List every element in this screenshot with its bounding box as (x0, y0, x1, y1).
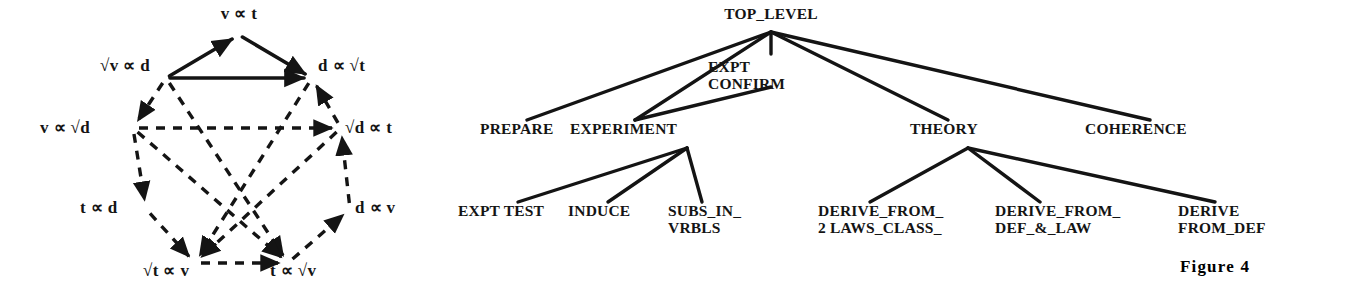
tree-node-derive_from_def_law: DERIVE_FROM_DEF_&_LAW (995, 202, 1121, 236)
proportionality-node-t_d: t ∝ d (80, 198, 118, 217)
tree-node-experiment: EXPERIMENT (570, 120, 678, 137)
tree-node-derive_from_2laws: DERIVE_FROM_2 LAWS_CLASS_ (818, 202, 944, 236)
tree-edge (771, 32, 1150, 120)
proportionality-edge (293, 215, 344, 259)
tree-node-label-line1: DERIVE_FROM_ (995, 202, 1121, 219)
proportionality-node-sqrtd_t: √d ∝ t (345, 118, 392, 137)
tree-node-label-line2: 2 LAWS_CLASS_ (818, 219, 942, 236)
tree-node-label-line1: EXPT (708, 58, 751, 75)
tree-edge (687, 148, 702, 202)
proportionality-solid-edges (169, 37, 305, 78)
figure-caption: Figure 4 (1180, 257, 1250, 276)
proportionality-node-sqrtt_v: √t ∝ v (143, 261, 189, 280)
tree-edge (771, 32, 948, 120)
proportionality-edge (150, 213, 189, 256)
tree-node-subs_in_vrbls: SUBS_IN_VRBLS (668, 202, 741, 236)
proportionality-edge (169, 83, 283, 255)
proportionality-node-v_t: v ∝ t (221, 4, 258, 23)
tree-edge (870, 148, 968, 202)
hierarchy-tree-svg: TOP_LEVELPREPAREEXPERIMENTEXPTCONFIRMTHE… (440, 0, 1356, 285)
proportionality-ring-edges (134, 83, 349, 263)
proportionality-node-sqrtv_d: √v ∝ d (100, 56, 150, 75)
tree-node-label-line1: DERIVE (1178, 202, 1240, 219)
figure-container: v ∝ t√v ∝ dd ∝ √tv ∝ √d√d ∝ tt ∝ dd ∝ v√… (0, 0, 1356, 285)
proportionality-node-t_sqrtv: t ∝ √v (270, 261, 316, 280)
proportionality-edge (202, 132, 337, 257)
proportionality-edge (242, 37, 305, 74)
proportionality-node-d_sqrtt: d ∝ √t (318, 56, 365, 75)
proportionality-edge (169, 39, 232, 76)
tree-node-labels: TOP_LEVELPREPAREEXPERIMENTEXPTCONFIRMTHE… (458, 5, 1266, 236)
proportionality-node-labels: v ∝ t√v ∝ dd ∝ √tv ∝ √d√d ∝ tt ∝ dd ∝ v√… (40, 4, 396, 280)
tree-node-expt_test: EXPT TEST (458, 202, 545, 219)
proportionality-edge (342, 137, 349, 203)
tree-node-expt_confirm: EXPTCONFIRM (708, 58, 785, 92)
tree-node-coherence: COHERENCE (1085, 120, 1187, 137)
tree-node-label-line1: DERIVE_FROM_ (818, 202, 944, 219)
tree-node-label-line1: INDUCE (568, 202, 630, 219)
tree-node-theory: THEORY (910, 120, 978, 137)
proportionality-svg: v ∝ t√v ∝ dd ∝ √tv ∝ √d√d ∝ tt ∝ dd ∝ v√… (0, 0, 440, 285)
proportionality-edge (134, 134, 145, 200)
tree-node-label-line2: FROM_DEF (1178, 219, 1266, 236)
proportionality-edge (317, 86, 338, 123)
tree-node-label-line1: SUBS_IN_ (668, 202, 741, 219)
proportionality-edge (138, 132, 282, 257)
proportionality-node-d_v: d ∝ v (355, 198, 396, 217)
tree-node-derive_from_def: DERIVEFROM_DEF (1178, 202, 1266, 236)
tree-node-prepare: PREPARE (480, 120, 553, 137)
tree-node-label-line2: VRBLS (668, 219, 721, 236)
tree-edges (518, 32, 1215, 202)
tree-node-label-line1: EXPT TEST (458, 202, 545, 219)
tree-node-top_level: TOP_LEVEL (724, 5, 818, 22)
proportionality-edge (138, 83, 163, 120)
hierarchy-tree-diagram: TOP_LEVELPREPAREEXPERIMENTEXPTCONFIRMTHE… (440, 0, 1356, 285)
tree-edge (608, 148, 687, 202)
proportionality-node-v_sqrtd: v ∝ √d (40, 118, 90, 137)
proportionality-diagram: v ∝ t√v ∝ dd ∝ √tv ∝ √d√d ∝ tt ∝ dd ∝ v√… (0, 0, 440, 285)
proportionality-edge (200, 83, 309, 255)
tree-node-induce: INDUCE (568, 202, 630, 219)
tree-node-label-line2: CONFIRM (708, 75, 785, 92)
tree-node-label-line2: DEF_&_LAW (995, 219, 1092, 236)
tree-edge (518, 148, 687, 202)
